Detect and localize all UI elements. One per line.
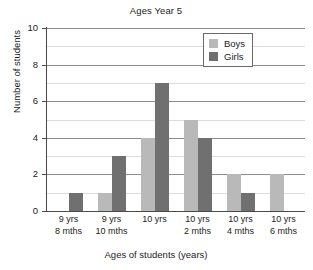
y-tick-mark [42, 101, 47, 102]
y-tick-label: 10 [10, 23, 38, 33]
bar-boys-3 [184, 120, 198, 212]
gridline-minor [47, 46, 305, 47]
gridline-major [47, 101, 305, 102]
x-category-line2: 10 mths [82, 226, 142, 238]
y-tick-label: 2 [10, 169, 38, 179]
y-tick-label: 6 [10, 96, 38, 106]
x-category-line1: 9 yrs [59, 214, 79, 224]
bar-boys-5 [270, 174, 284, 211]
x-axis-title: Ages of students (years) [0, 249, 312, 260]
bar-girls-0 [69, 193, 83, 211]
legend: BoysGirls [203, 33, 253, 67]
x-category-label-5: 10 yrs6 mths [254, 214, 313, 237]
x-category-line1: 10 yrs [228, 214, 253, 224]
legend-item-boys: Boys [209, 37, 245, 50]
legend-swatch-boys [209, 39, 218, 48]
x-category-line1: 10 yrs [185, 214, 210, 224]
plot-area [47, 28, 305, 211]
y-tick-mark [42, 28, 47, 29]
y-tick-label: 0 [10, 206, 38, 216]
gridline-major [47, 138, 305, 139]
y-tick-mark [42, 65, 47, 66]
bar-boys-4 [227, 174, 241, 211]
x-category-line1: 9 yrs [102, 214, 122, 224]
bar-boys-2 [141, 138, 155, 211]
y-tick-mark [42, 211, 47, 212]
gridline-major [47, 28, 305, 29]
chart-title: Ages Year 5 [0, 5, 312, 16]
gridline-minor [47, 156, 305, 157]
legend-label-girls: Girls [224, 51, 244, 62]
gridline-major [47, 65, 305, 66]
gridline-minor [47, 120, 305, 121]
gridline-minor [47, 193, 305, 194]
y-tick-label: 8 [10, 60, 38, 70]
x-category-line1: 10 yrs [271, 214, 296, 224]
bar-boys-1 [98, 193, 112, 211]
bar-girls-1 [112, 156, 126, 211]
bar-girls-4 [241, 193, 255, 211]
bar-girls-2 [155, 83, 169, 211]
y-tick-mark [42, 138, 47, 139]
x-category-line2: 6 mths [254, 226, 313, 238]
y-tick-label: 4 [10, 133, 38, 143]
legend-swatch-girls [209, 52, 218, 61]
x-axis-line [42, 211, 305, 212]
bar-girls-3 [198, 138, 212, 211]
bar-chart: Ages Year 5 Number of students Ages of s… [0, 0, 312, 270]
y-axis-line [46, 27, 47, 212]
x-category-line1: 10 yrs [142, 214, 167, 224]
legend-label-boys: Boys [224, 38, 245, 49]
y-tick-mark [42, 174, 47, 175]
legend-item-girls: Girls [209, 50, 245, 63]
gridline-major [47, 174, 305, 175]
gridline-minor [47, 83, 305, 84]
